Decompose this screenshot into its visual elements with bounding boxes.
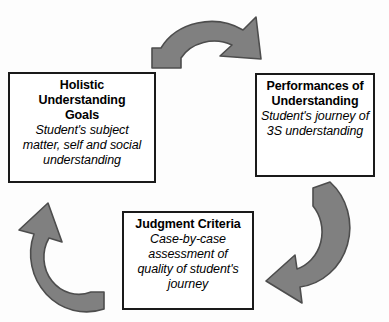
- node-box-holistic-understanding-goals[interactable]: HolisticUnderstandingGoals Student's sub…: [8, 72, 156, 183]
- node-title-performances: Performances ofUnderstanding: [260, 79, 370, 109]
- node-title-goals: HolisticUnderstandingGoals: [13, 78, 151, 123]
- node-description-performances: Student's journey of3S understanding: [260, 109, 370, 139]
- node-box-judgment-criteria[interactable]: Judgment Criteria Case-by-caseassessment…: [122, 211, 254, 310]
- diagram-canvas: HolisticUnderstandingGoals Student's sub…: [0, 0, 389, 322]
- arrow-right-performances-to-judgment: [266, 182, 350, 303]
- node-description-judgment: Case-by-caseassessment ofquality of stud…: [127, 232, 249, 292]
- arrow-left-judgment-to-goals: [19, 203, 104, 312]
- arrow-top-goals-to-performances: [152, 17, 261, 68]
- node-title-judgment: Judgment Criteria: [127, 217, 249, 232]
- node-description-goals: Student's subjectmatter, self and social…: [13, 123, 151, 168]
- node-box-performances-of-understanding[interactable]: Performances ofUnderstanding Student's j…: [255, 73, 375, 177]
